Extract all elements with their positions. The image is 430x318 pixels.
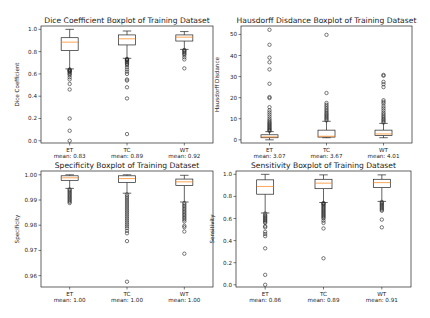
- y-tick-label: 20: [230, 95, 238, 101]
- y-tick-label: 0: [233, 137, 237, 143]
- x-category-label: WT: [180, 147, 190, 153]
- x-category-label: ET: [66, 291, 74, 297]
- y-tick-label: 0.2: [223, 260, 232, 266]
- x-mean-label: mean: 3.07: [254, 153, 286, 159]
- boxplot-figure: Dice Coefficient Boxplot of Training Dat…: [0, 0, 430, 318]
- x-mean-label: mean: 4.01: [368, 153, 400, 159]
- y-tick-label: 0.97: [25, 247, 38, 253]
- x-category-label: ET: [266, 147, 274, 153]
- x-category-label: WT: [377, 291, 387, 297]
- y-tick-label: 1.00: [25, 172, 38, 178]
- x-category-label: TC: [322, 147, 330, 153]
- y-axis-label: Specificity: [14, 214, 21, 244]
- x-mean-label: mean: 0.89: [111, 153, 143, 159]
- y-tick-label: 1.0: [223, 171, 232, 177]
- x-mean-label: mean: 3.67: [311, 153, 343, 159]
- y-tick-label: 0.4: [28, 93, 37, 99]
- x-mean-label: mean: 0.91: [366, 297, 398, 303]
- y-tick-label: 0.4: [223, 238, 232, 244]
- y-tick-label: 50: [230, 31, 238, 37]
- x-mean-label: mean: 0.83: [54, 153, 86, 159]
- y-tick-label: 0.0: [28, 138, 37, 144]
- x-mean-label: mean: 1.00: [168, 297, 200, 303]
- y-tick-label: 0.6: [28, 71, 37, 77]
- x-category-label: ET: [262, 291, 270, 297]
- y-axis-label: Sensitivity: [209, 214, 216, 244]
- x-mean-label: mean: 0.92: [168, 153, 200, 159]
- y-tick-label: 1.0: [28, 26, 37, 32]
- x-category-label: WT: [379, 147, 389, 153]
- y-tick-label: 10: [230, 116, 238, 122]
- subplot-title: Hausdorff Disdance Boxplot of Training D…: [237, 16, 417, 25]
- y-tick-label: 0.99: [25, 197, 38, 203]
- y-axis-label: Dice Coefficient: [14, 62, 20, 107]
- x-category-label: TC: [123, 291, 131, 297]
- y-tick-label: 0.8: [28, 49, 37, 55]
- y-tick-label: 0.0: [223, 282, 232, 288]
- y-tick-label: 0.8: [223, 193, 232, 199]
- y-tick-label: 0.6: [223, 216, 232, 222]
- y-axis-label: Hausdorff Disdance: [214, 57, 220, 112]
- subplot-title: Sensitivity Boxplot of Training Dataset: [251, 161, 396, 170]
- subplot-title: Dice Coefficient Boxplot of Training Dat…: [44, 16, 209, 25]
- x-mean-label: mean: 0.86: [249, 297, 281, 303]
- y-tick-label: 40: [230, 53, 238, 59]
- y-tick-label: 0.96: [25, 273, 38, 279]
- y-tick-label: 0.98: [25, 222, 38, 228]
- x-mean-label: mean: 1.00: [111, 297, 143, 303]
- subplot-title: Specificity Boxplot of Training Dataset: [55, 161, 200, 170]
- x-category-label: TC: [123, 147, 131, 153]
- x-category-label: TC: [319, 291, 327, 297]
- x-mean-label: mean: 1.00: [54, 297, 86, 303]
- x-category-label: ET: [66, 147, 74, 153]
- y-tick-label: 0.2: [28, 115, 37, 121]
- x-mean-label: mean: 0.89: [308, 297, 340, 303]
- x-category-label: WT: [180, 291, 190, 297]
- y-tick-label: 30: [230, 74, 238, 80]
